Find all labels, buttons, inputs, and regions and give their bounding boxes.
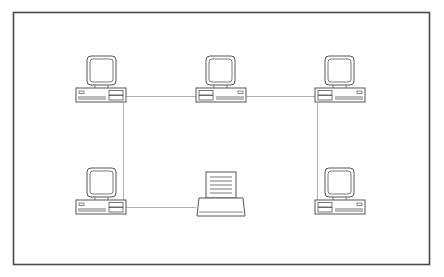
network-diagram [0, 0, 444, 277]
diagram-frame [14, 13, 430, 265]
